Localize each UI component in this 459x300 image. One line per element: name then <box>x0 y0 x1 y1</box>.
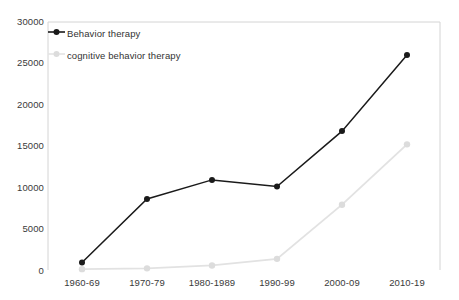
data-point <box>274 184 280 190</box>
data-point <box>209 177 215 183</box>
line-chart: 30000 25000 20000 15000 10000 5000 0 196… <box>0 0 459 300</box>
series-points-cognitive-behavior-therapy <box>79 141 410 272</box>
legend-marker-cognitive-behavior-therapy <box>48 51 65 57</box>
series-points-behavior-therapy <box>79 52 410 265</box>
legend-marker-behavior-therapy <box>48 29 65 35</box>
data-point <box>274 256 280 262</box>
chart-canvas <box>0 0 459 300</box>
data-point <box>209 262 215 268</box>
data-point <box>404 141 410 147</box>
series-line-behavior-therapy <box>82 55 407 262</box>
data-point <box>144 196 150 202</box>
data-point <box>339 128 345 134</box>
data-point <box>79 260 85 266</box>
data-point <box>79 266 85 272</box>
data-point <box>339 201 345 207</box>
data-point <box>144 265 150 271</box>
data-point <box>404 52 410 58</box>
series-line-cognitive-behavior-therapy <box>82 144 407 269</box>
